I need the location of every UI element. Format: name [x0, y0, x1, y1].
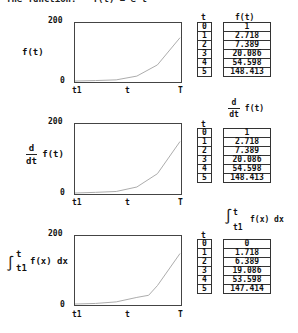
integral-lower-limit: t1 [16, 263, 27, 273]
table-header-f: f(t) [235, 13, 254, 22]
y-max-label: 200 [48, 117, 62, 126]
table-header-integral: ∫ t t1 f(x) dx [224, 208, 294, 232]
x-label-mid: t [125, 86, 130, 95]
header-text: The function: f(t) = e^t [6, 0, 147, 4]
t-table: 0 1 2 3 4 5 [197, 22, 212, 77]
t-cell: 5 [198, 285, 212, 294]
function-label: f(t) [42, 149, 64, 159]
table-header-derivative: ddt f(t) [228, 98, 264, 119]
y-min-label: 0 [60, 76, 65, 85]
line-series [75, 236, 181, 305]
x-label-left: t1 [72, 310, 82, 319]
t-cell: 5 [198, 68, 212, 77]
fraction-denominator: dt [228, 110, 240, 119]
t-table: 0 1 2 3 4 5 [197, 239, 212, 294]
function-label: f(x) dx [30, 256, 68, 266]
t-cell: 5 [198, 174, 212, 183]
y-max-label: 200 [48, 229, 62, 238]
plot-frame [74, 22, 182, 83]
line-series [75, 23, 181, 82]
integral-icon: ∫ [224, 208, 232, 224]
x-label-right: T [178, 310, 183, 319]
value-table: 1 2.718 7.389 20.086 54.598 148.413 [223, 22, 271, 77]
y-min-label: 0 [60, 188, 65, 197]
value-table: 1 2.718 7.389 20.086 54.598 148.413 [223, 128, 271, 183]
x-label-right: T [178, 86, 183, 95]
integral-lower-limit: t1 [233, 223, 243, 232]
x-label-mid: t [125, 310, 130, 319]
value-cell: 148.413 [224, 68, 271, 77]
x-label-mid: t [125, 198, 130, 207]
integral-icon: ∫ [6, 255, 14, 271]
y-axis-label: ∫ t t1 f(x) dx [6, 255, 14, 271]
integral-upper-limit: t [16, 249, 21, 259]
x-label-left: t1 [72, 198, 82, 207]
table-header-t: t [201, 13, 206, 22]
y-min-label: 0 [60, 300, 65, 309]
plot-frame [74, 235, 182, 306]
x-label-right: T [178, 198, 183, 207]
line-series [75, 124, 181, 194]
value-table: 0 1.718 6.389 19.086 53.598 147.414 [223, 239, 271, 294]
value-cell: 148.413 [224, 174, 271, 183]
y-max-label: 200 [48, 16, 62, 25]
t-table: 0 1 2 3 4 5 [197, 128, 212, 183]
y-axis-label: ddt f(t) [26, 143, 64, 166]
fraction-numerator: d [228, 98, 240, 107]
x-label-left: t1 [72, 86, 82, 95]
fraction-denominator: dt [26, 156, 37, 166]
y-axis-label: f(t) [22, 47, 44, 57]
integral-upper-limit: t [233, 208, 238, 217]
function-label: f(x) dx [250, 215, 284, 224]
value-cell: 147.414 [224, 285, 271, 294]
plot-frame [74, 123, 182, 195]
function-label: f(t) [245, 104, 264, 113]
fraction-numerator: d [26, 143, 37, 153]
